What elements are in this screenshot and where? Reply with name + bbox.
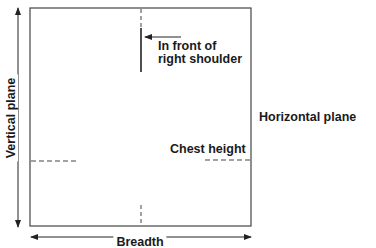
shoulder-label-line2: right shoulder (158, 53, 242, 66)
horizontal-plane-label: Horizontal plane (259, 111, 356, 124)
breadth-label: Breadth (113, 235, 166, 248)
chest-height-label: Chest height (170, 143, 246, 156)
vertical-plane-label: Vertical plane (4, 75, 18, 162)
diagram-canvas (0, 0, 376, 248)
